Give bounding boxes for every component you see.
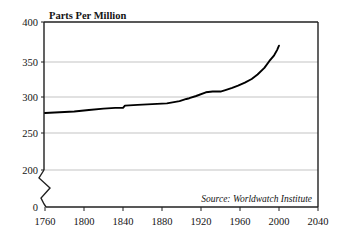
- ytick-label-300: 300: [22, 92, 38, 103]
- ytick-label-350: 350: [22, 57, 38, 68]
- xtick-label-1760: 1760: [35, 216, 56, 227]
- y-axis-title: Parts Per Million: [49, 10, 127, 21]
- xtick-label-1880: 1880: [152, 216, 173, 227]
- ytick-label-250: 250: [22, 128, 38, 139]
- xtick-label-1960: 1960: [230, 216, 251, 227]
- xtick-label-2000: 2000: [269, 216, 290, 227]
- source-annotation: Source: Worldwatch Institute: [201, 194, 312, 204]
- xtick-label-2040: 2040: [308, 216, 329, 227]
- xtick-label-1800: 1800: [74, 216, 95, 227]
- xtick-label-1840: 1840: [113, 216, 134, 227]
- co2-line-chart: Parts Per Million 400 350 300 250 200 0 …: [0, 0, 357, 237]
- chart-container: Parts Per Million 400 350 300 250 200 0 …: [0, 0, 357, 237]
- xtick-label-1920: 1920: [191, 216, 212, 227]
- ytick-label-200: 200: [22, 165, 38, 176]
- ytick-label-0: 0: [33, 202, 38, 213]
- ytick-label-400: 400: [22, 17, 38, 28]
